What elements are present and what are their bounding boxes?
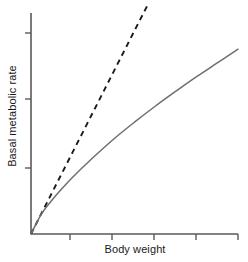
y-axis-ticks (25, 33, 31, 168)
plot-area (0, 0, 248, 262)
chart-figure: Basal metabolic rate Body weight (0, 0, 248, 262)
y-axis-label-text: Basal metabolic rate (6, 65, 18, 167)
series-isometric-reference-line (31, 6, 147, 234)
x-axis-ticks (70, 234, 238, 240)
y-axis-label: Basal metabolic rate (0, 0, 24, 232)
series-allometric-curve (31, 49, 238, 234)
x-axis-label: Body weight (31, 243, 239, 255)
